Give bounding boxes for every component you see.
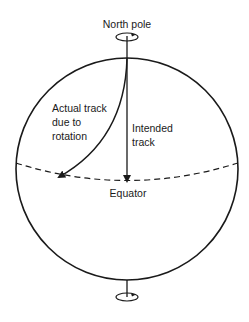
actual-track-label-1: Actual track [52,102,108,114]
actual-track-label-3: rotation [52,130,87,142]
intended-track-label-1: Intended [132,122,173,134]
north-pole-label: North pole [103,18,152,30]
earth-rotation-diagram: North pole Actual track due to rotation … [0,0,249,322]
intended-track-label-2: track [132,136,156,148]
equator-label: Equator [110,187,147,199]
actual-track-label-2: due to [52,116,81,128]
